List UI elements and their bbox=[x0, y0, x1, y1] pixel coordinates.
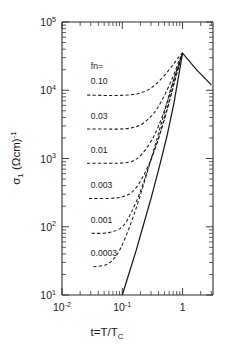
svg-text:t=T/TC: t=T/TC bbox=[91, 326, 124, 341]
x-tick-label: 10-1 bbox=[113, 300, 131, 314]
series-label-0.003: 0.003 bbox=[91, 180, 113, 190]
x-axis-title: t=T/TC bbox=[91, 326, 124, 341]
y-axis-title-unit-exponent: -1 bbox=[9, 131, 18, 139]
x-axis-title-subscript: C bbox=[118, 332, 124, 341]
y-axis-tick-labels: 101102103104105 bbox=[40, 15, 56, 302]
y-tick-label: 104 bbox=[40, 83, 56, 97]
y-tick-label: 101 bbox=[40, 288, 56, 302]
legend-title: fn= bbox=[91, 61, 103, 71]
data-series-group bbox=[87, 53, 211, 295]
y-tick-label: 102 bbox=[40, 219, 56, 233]
x-axis-tick-labels: 10-210-11 bbox=[53, 300, 186, 314]
svg-text:σ1 (Ωcm)-1: σ1 (Ωcm)-1 bbox=[9, 131, 25, 185]
figure-container: 101102103104105 10-210-11 fn=0.100.030.0… bbox=[0, 0, 231, 351]
series-label-0.001: 0.001 bbox=[91, 215, 113, 225]
y-axis-title: σ1 (Ωcm)-1 bbox=[9, 131, 25, 185]
y-axis-title-sigma: σ bbox=[10, 178, 22, 185]
series-label-0.0003: 0.0003 bbox=[91, 248, 118, 258]
series-annotations: fn=0.100.030.010.0030.0010.0003 bbox=[91, 61, 118, 258]
y-tick-label: 103 bbox=[40, 151, 56, 165]
conductivity-vs-reduced-temperature-chart: 101102103104105 10-210-11 fn=0.100.030.0… bbox=[0, 0, 231, 351]
y-axis-title-unit: (Ωcm) bbox=[10, 138, 22, 170]
x-tick-label: 1 bbox=[180, 301, 186, 313]
x-tick-label: 10-2 bbox=[53, 300, 71, 314]
series-label-0.01: 0.01 bbox=[91, 145, 108, 155]
y-tick-label: 105 bbox=[40, 15, 56, 29]
series-label-0.03: 0.03 bbox=[91, 111, 108, 121]
series-curve-fn-0.10 bbox=[87, 53, 183, 95]
x-axis-title-main: t=T/T bbox=[91, 326, 118, 338]
series-label-0.10: 0.10 bbox=[91, 76, 108, 86]
